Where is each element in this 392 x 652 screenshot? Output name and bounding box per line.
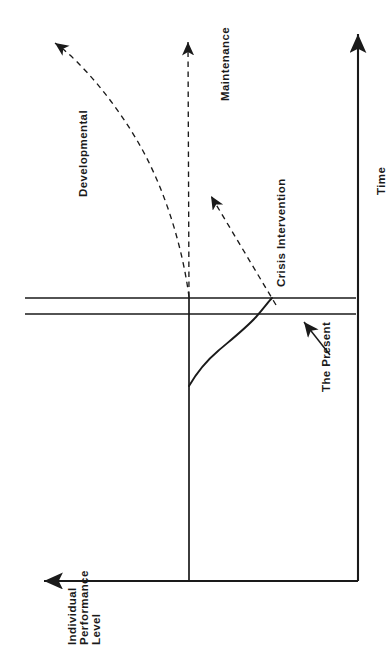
performance-curve-solid	[189, 298, 272, 386]
maintenance-path	[188, 42, 189, 297]
label-crisis-intervention: Crisis Intervention	[275, 178, 287, 287]
label-performance-axis-line-3: Level	[90, 570, 102, 645]
developmental-path	[55, 43, 189, 297]
the-present-band	[25, 298, 356, 314]
developmental-trajectory	[55, 43, 189, 297]
label-time-axis: Time	[375, 167, 387, 195]
diagram-svg	[0, 0, 392, 652]
label-performance-axis: Individual Performance Level	[66, 570, 102, 645]
label-performance-axis-line-1: Individual	[66, 570, 78, 645]
crisis-intervention-path	[211, 196, 276, 305]
figure-canvas: Developmental Maintenance Crisis Interve…	[0, 0, 392, 652]
label-performance-axis-line-2: Performance	[78, 570, 90, 645]
label-maintenance: Maintenance	[219, 27, 231, 101]
crisis-intervention-trajectory	[211, 196, 276, 305]
maintenance-trajectory	[188, 42, 189, 297]
label-the-present: The Present	[320, 322, 332, 392]
label-developmental: Developmental	[77, 110, 89, 197]
performance-curve-path	[189, 298, 272, 386]
